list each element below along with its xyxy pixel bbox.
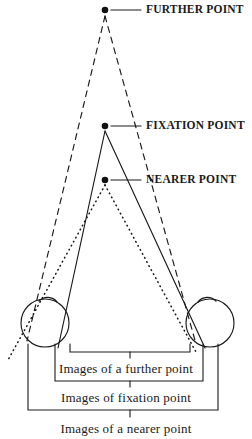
nearer-point-rays [8, 185, 196, 360]
bracket-further-images [70, 344, 190, 358]
diagram-canvas: FURTHER POINT FIXATION POINT NEARER POIN… [0, 0, 252, 439]
fixation-point-rays [58, 131, 205, 348]
label-images-nearer-point: Images of a nearer point [0, 421, 252, 437]
label-images-fixation-point: Images of fixation point [0, 390, 252, 406]
label-images-further-point: Images of a further point [0, 361, 252, 377]
label-nearer-point: NEARER POINT [146, 173, 236, 185]
further-point-dot [102, 7, 109, 14]
fixation-point-dot [102, 123, 109, 130]
nearer-point-dot [102, 177, 109, 184]
label-further-point: FURTHER POINT [146, 3, 244, 15]
label-fixation-point: FIXATION POINT [146, 119, 245, 131]
